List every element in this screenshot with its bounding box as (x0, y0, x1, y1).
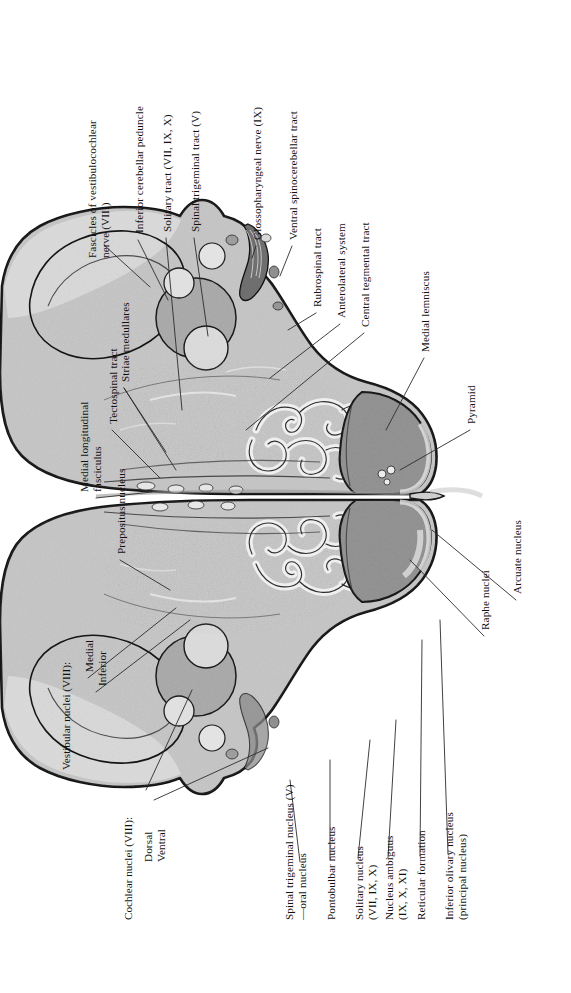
label-prepositus-nucleus: Prepositus nucleus (115, 469, 128, 554)
leader-reticular-formation (420, 640, 422, 856)
label-inferior-olivary-nucleus: Inferior olivary nucleus (principal nucl… (443, 812, 468, 920)
midline-vessel (137, 482, 155, 490)
label-cochlear-dorsal: Dorsal (142, 832, 155, 862)
label-nucleus-ambiguus: Nucleus ambiguus (IX, X, XI) (383, 835, 408, 920)
label-vestibular-medial: Medial (83, 640, 96, 672)
label-vestibular-nuclei-heading: Vestibular nuclei (VIII): (60, 662, 73, 770)
label-striae-medullares: Striae medullares (119, 302, 132, 382)
ventral-median-fissure (410, 492, 444, 499)
free-fascicle (269, 716, 279, 728)
leader-solitary-nucleus (358, 740, 370, 858)
label-arcuate-nucleus: Arcuate nucleus (511, 520, 524, 594)
vessel (378, 470, 386, 478)
label-spinal-trigeminal-nucleus: Spinal trigeminal nucleus (V) —oral nucl… (283, 784, 308, 920)
label-inferior-cerebellar-peduncle: Inferior cerebellar peduncle (133, 106, 146, 233)
atlas-plate: Fascicles of vestibulocochlear nerve (VI… (0, 0, 571, 993)
label-reticular-formation: Reticular formation (415, 830, 428, 920)
label-vestibular-inferior: Inferior (96, 651, 109, 686)
label-ventral-spinocerebellar-tract: Ventral spinocerebellar tract (287, 111, 300, 240)
label-medial-longitudinal-fasciculus: Medial longitudinal fasciculus (78, 402, 103, 492)
label-tectospinal-tract: Tectospinal tract (107, 348, 120, 424)
solitary-nucleus-pale (164, 696, 194, 726)
free-fascicle (226, 235, 238, 245)
label-cochlear-ventral: Ventral (155, 829, 168, 862)
free-fascicle (273, 302, 283, 310)
label-fascicles-vestibulocochlear: Fascicles of vestibulocochlear nerve (VI… (86, 120, 111, 258)
small-pale-nucleus (199, 243, 225, 269)
leader-raphe-nuclei (410, 560, 484, 636)
midline-vessel (221, 502, 235, 510)
small-pale-nucleus (199, 725, 225, 751)
label-solitary-tract: Solitary tract (VII, IX, X) (161, 114, 174, 232)
free-fascicle (226, 749, 238, 759)
label-cochlear-nuclei-heading: Cochlear nuclei (VIII): (122, 817, 135, 920)
label-medial-lemniscus: Medial lemniscus (419, 271, 432, 352)
vessel (387, 466, 395, 474)
solitary-tract-pale (164, 268, 194, 298)
label-raphe-nuclei: Raphe nuclei (479, 570, 492, 630)
leader-arcuate-nucleus (432, 530, 516, 600)
label-glossopharyngeal-nerve: Glossopharyngeal nerve (IX) (251, 107, 264, 240)
label-rubrospinal-tract: Rubrospinal tract (311, 228, 324, 307)
label-central-tegmental-tract: Central tegmental tract (359, 222, 372, 327)
midline-vessel (152, 503, 168, 511)
midline-vessel (188, 501, 204, 509)
free-fascicle (269, 266, 279, 278)
label-pontobulbar-nucleus: Pontobulbar nucleus (325, 826, 338, 920)
vessel (384, 479, 390, 485)
label-anterolateral-system: Anterolateral system (335, 223, 348, 318)
label-pyramid: Pyramid (465, 385, 478, 424)
leader-ventral-spinocerebellar-tract (280, 246, 292, 276)
label-solitary-nucleus: Solitary nucleus (VII, IX, X) (353, 846, 378, 920)
label-spinal-trigeminal-tract: Spinal trigeminal tract (V) (189, 111, 202, 232)
